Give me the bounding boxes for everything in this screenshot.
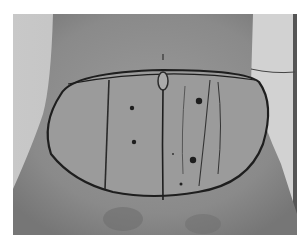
umbilicus — [158, 72, 168, 90]
abdomen-photo — [13, 14, 297, 235]
photograph — [13, 14, 297, 235]
midline-marking — [163, 90, 164, 200]
ellipse-marking — [48, 70, 268, 196]
